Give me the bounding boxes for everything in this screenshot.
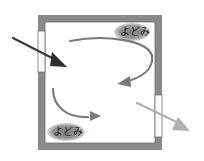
stagnation-label-bottom: よどみ <box>53 126 83 138</box>
stagnation-label-top: よどみ <box>120 26 150 38</box>
airflow-diagram <box>0 0 204 161</box>
window-right <box>155 95 162 137</box>
